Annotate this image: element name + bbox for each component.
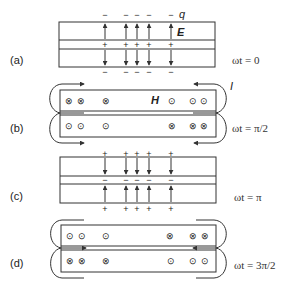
panel-label-d: (d) (10, 257, 23, 269)
charge-sign: − (123, 10, 128, 20)
charge-label-q: q (179, 8, 186, 20)
into-page-icon: ⊗ (102, 96, 110, 106)
charge-sign: + (168, 149, 173, 159)
out-of-page-icon: ⊙ (168, 96, 176, 106)
panel-c: (c) + + + + + − − − − (10, 149, 262, 214)
transmission-line-field-diagram: (a) − − − − − + + + + (0, 0, 290, 287)
charge-sign: + (134, 204, 139, 214)
charge-sign: − (134, 10, 139, 20)
charge-sign: − (146, 67, 151, 77)
current-label-i: I (230, 80, 233, 92)
charge-sign: − (168, 10, 173, 20)
panel-label-a: (a) (10, 54, 23, 66)
out-of-page-icon: ⊙ (102, 231, 110, 241)
charge-sign: + (123, 204, 128, 214)
charge-sign: + (123, 40, 128, 50)
charge-sign: − (102, 175, 107, 185)
current-loops-b (50, 84, 227, 143)
out-of-page-icon: ⊙ (66, 231, 74, 241)
h-field-label: H (151, 94, 160, 106)
h-field-symbols-d: ⊙ ⊙ ⊙ ⊗ ⊗ ⊗ ⊗ ⊗ ⊗ ⊙ ⊙ ⊙ (66, 231, 209, 266)
charge-sign: − (134, 175, 139, 185)
charge-signs-c: + + + + + − − − − − + + + + + (102, 149, 173, 214)
h-field-symbols-b: ⊗ ⊗ ⊗ ⊙ ⊙ ⊙ ⊙ ⊙ ⊙ ⊗ ⊗ ⊗ (65, 96, 208, 131)
into-page-icon: ⊗ (66, 256, 74, 266)
charge-sign: + (168, 204, 173, 214)
charge-sign: − (168, 67, 173, 77)
charge-sign: + (146, 149, 151, 159)
out-of-page-icon: ⊙ (102, 121, 110, 131)
panel-label-b: (b) (10, 122, 23, 134)
charge-sign: − (102, 67, 107, 77)
charge-sign: − (134, 67, 139, 77)
e-field-label: E (177, 26, 185, 38)
into-page-icon: ⊗ (77, 96, 85, 106)
out-of-page-icon: ⊙ (77, 121, 85, 131)
time-label-c: ωt = π (234, 191, 262, 203)
charge-sign: − (168, 175, 173, 185)
into-page-icon: ⊗ (189, 121, 197, 131)
charge-sign: − (102, 10, 107, 20)
out-of-page-icon: ⊙ (189, 256, 197, 266)
out-of-page-icon: ⊙ (201, 256, 209, 266)
charge-sign: − (123, 67, 128, 77)
out-of-page-icon: ⊙ (65, 121, 73, 131)
charge-sign: + (146, 40, 151, 50)
charge-sign: + (102, 40, 107, 50)
out-of-page-icon: ⊙ (167, 256, 175, 266)
into-page-icon: ⊗ (200, 121, 208, 131)
out-of-page-icon: ⊙ (78, 231, 86, 241)
current-loops-d (51, 220, 227, 278)
panel-b: (b) ⊗ ⊗ ⊗ ⊙ ⊙ ⊙ ⊙ ⊙ (10, 80, 268, 143)
into-page-icon: ⊗ (65, 96, 73, 106)
charge-sign: + (134, 149, 139, 159)
into-page-icon: ⊗ (166, 231, 174, 241)
charge-sign: + (134, 40, 139, 50)
charge-sign: + (102, 204, 107, 214)
charge-sign: − (146, 10, 151, 20)
charge-sign: + (102, 149, 107, 159)
into-page-icon: ⊗ (189, 231, 197, 241)
into-page-icon: ⊗ (102, 256, 110, 266)
time-label-d: ωt = 3π/2 (234, 259, 276, 271)
out-of-page-icon: ⊙ (200, 96, 208, 106)
time-label-a: ωt = 0 (232, 54, 260, 66)
out-of-page-icon: ⊙ (189, 96, 197, 106)
charge-sign: − (123, 175, 128, 185)
panel-d: (d) ⊙ ⊙ ⊙ ⊗ ⊗ ⊗ ⊗ ⊗ ⊗ ⊙ ⊙ (10, 220, 276, 278)
charge-sign: + (146, 204, 151, 214)
charge-sign: + (123, 149, 128, 159)
charge-sign: − (146, 175, 151, 185)
time-label-b: ωt = π/2 (232, 122, 268, 134)
panel-label-c: (c) (10, 190, 23, 202)
charge-sign: + (168, 40, 173, 50)
into-page-icon: ⊗ (201, 231, 209, 241)
into-page-icon: ⊗ (168, 121, 176, 131)
panel-a: (a) − − − − − + + + + (10, 8, 260, 77)
into-page-icon: ⊗ (78, 256, 86, 266)
